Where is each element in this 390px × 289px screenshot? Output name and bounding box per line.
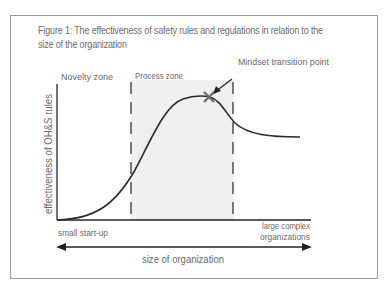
effectiveness-diagram: Novelty zone Process zone Mindset transi… <box>0 0 390 289</box>
y-axis-label: effectiveness of OH&S rules <box>42 94 54 214</box>
process-zone-label: Process zone <box>135 70 183 81</box>
x-axis-right-label-line2: organizations <box>260 231 310 242</box>
novelty-zone-label: Novelty zone <box>61 71 113 82</box>
size-arrow-right-head-icon <box>302 243 312 251</box>
size-arrow-left-head-icon <box>56 243 66 251</box>
size-of-organization-label: size of organization <box>142 253 224 265</box>
x-axis-left-label: small start-up <box>58 227 108 238</box>
x-axis-right-label-line1: large complex <box>262 220 310 231</box>
mindset-transition-label: Mindset transition point <box>238 56 329 67</box>
